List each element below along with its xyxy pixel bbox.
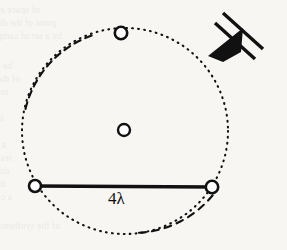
baseline-chord [35,186,212,187]
antenna-array-diagram [0,0,287,250]
node-bottom-left [29,180,41,192]
node-top [115,27,127,39]
figure-canvas: of space exactly once. Thus, each resolv… [0,0,287,250]
node-center [118,124,130,136]
chord-dimension-label: 4λ [108,189,125,209]
orbit-arc-dash-upper-left [26,36,93,110]
node-bottom-right [206,181,218,193]
incident-wave-arrow [208,13,263,62]
